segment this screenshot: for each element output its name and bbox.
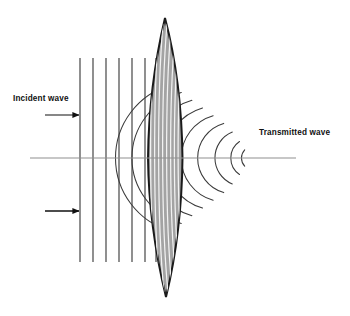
- incident-plane-wavefronts: [80, 58, 156, 262]
- diagram-canvas: [0, 0, 350, 316]
- incident-wave-label: Incident wave: [13, 95, 69, 103]
- lens-wave-diagram: Incident wave Transmitted wave: [0, 0, 350, 316]
- transmitted-wave-label: Transmitted wave: [259, 129, 330, 137]
- propagation-arrows: [45, 115, 79, 211]
